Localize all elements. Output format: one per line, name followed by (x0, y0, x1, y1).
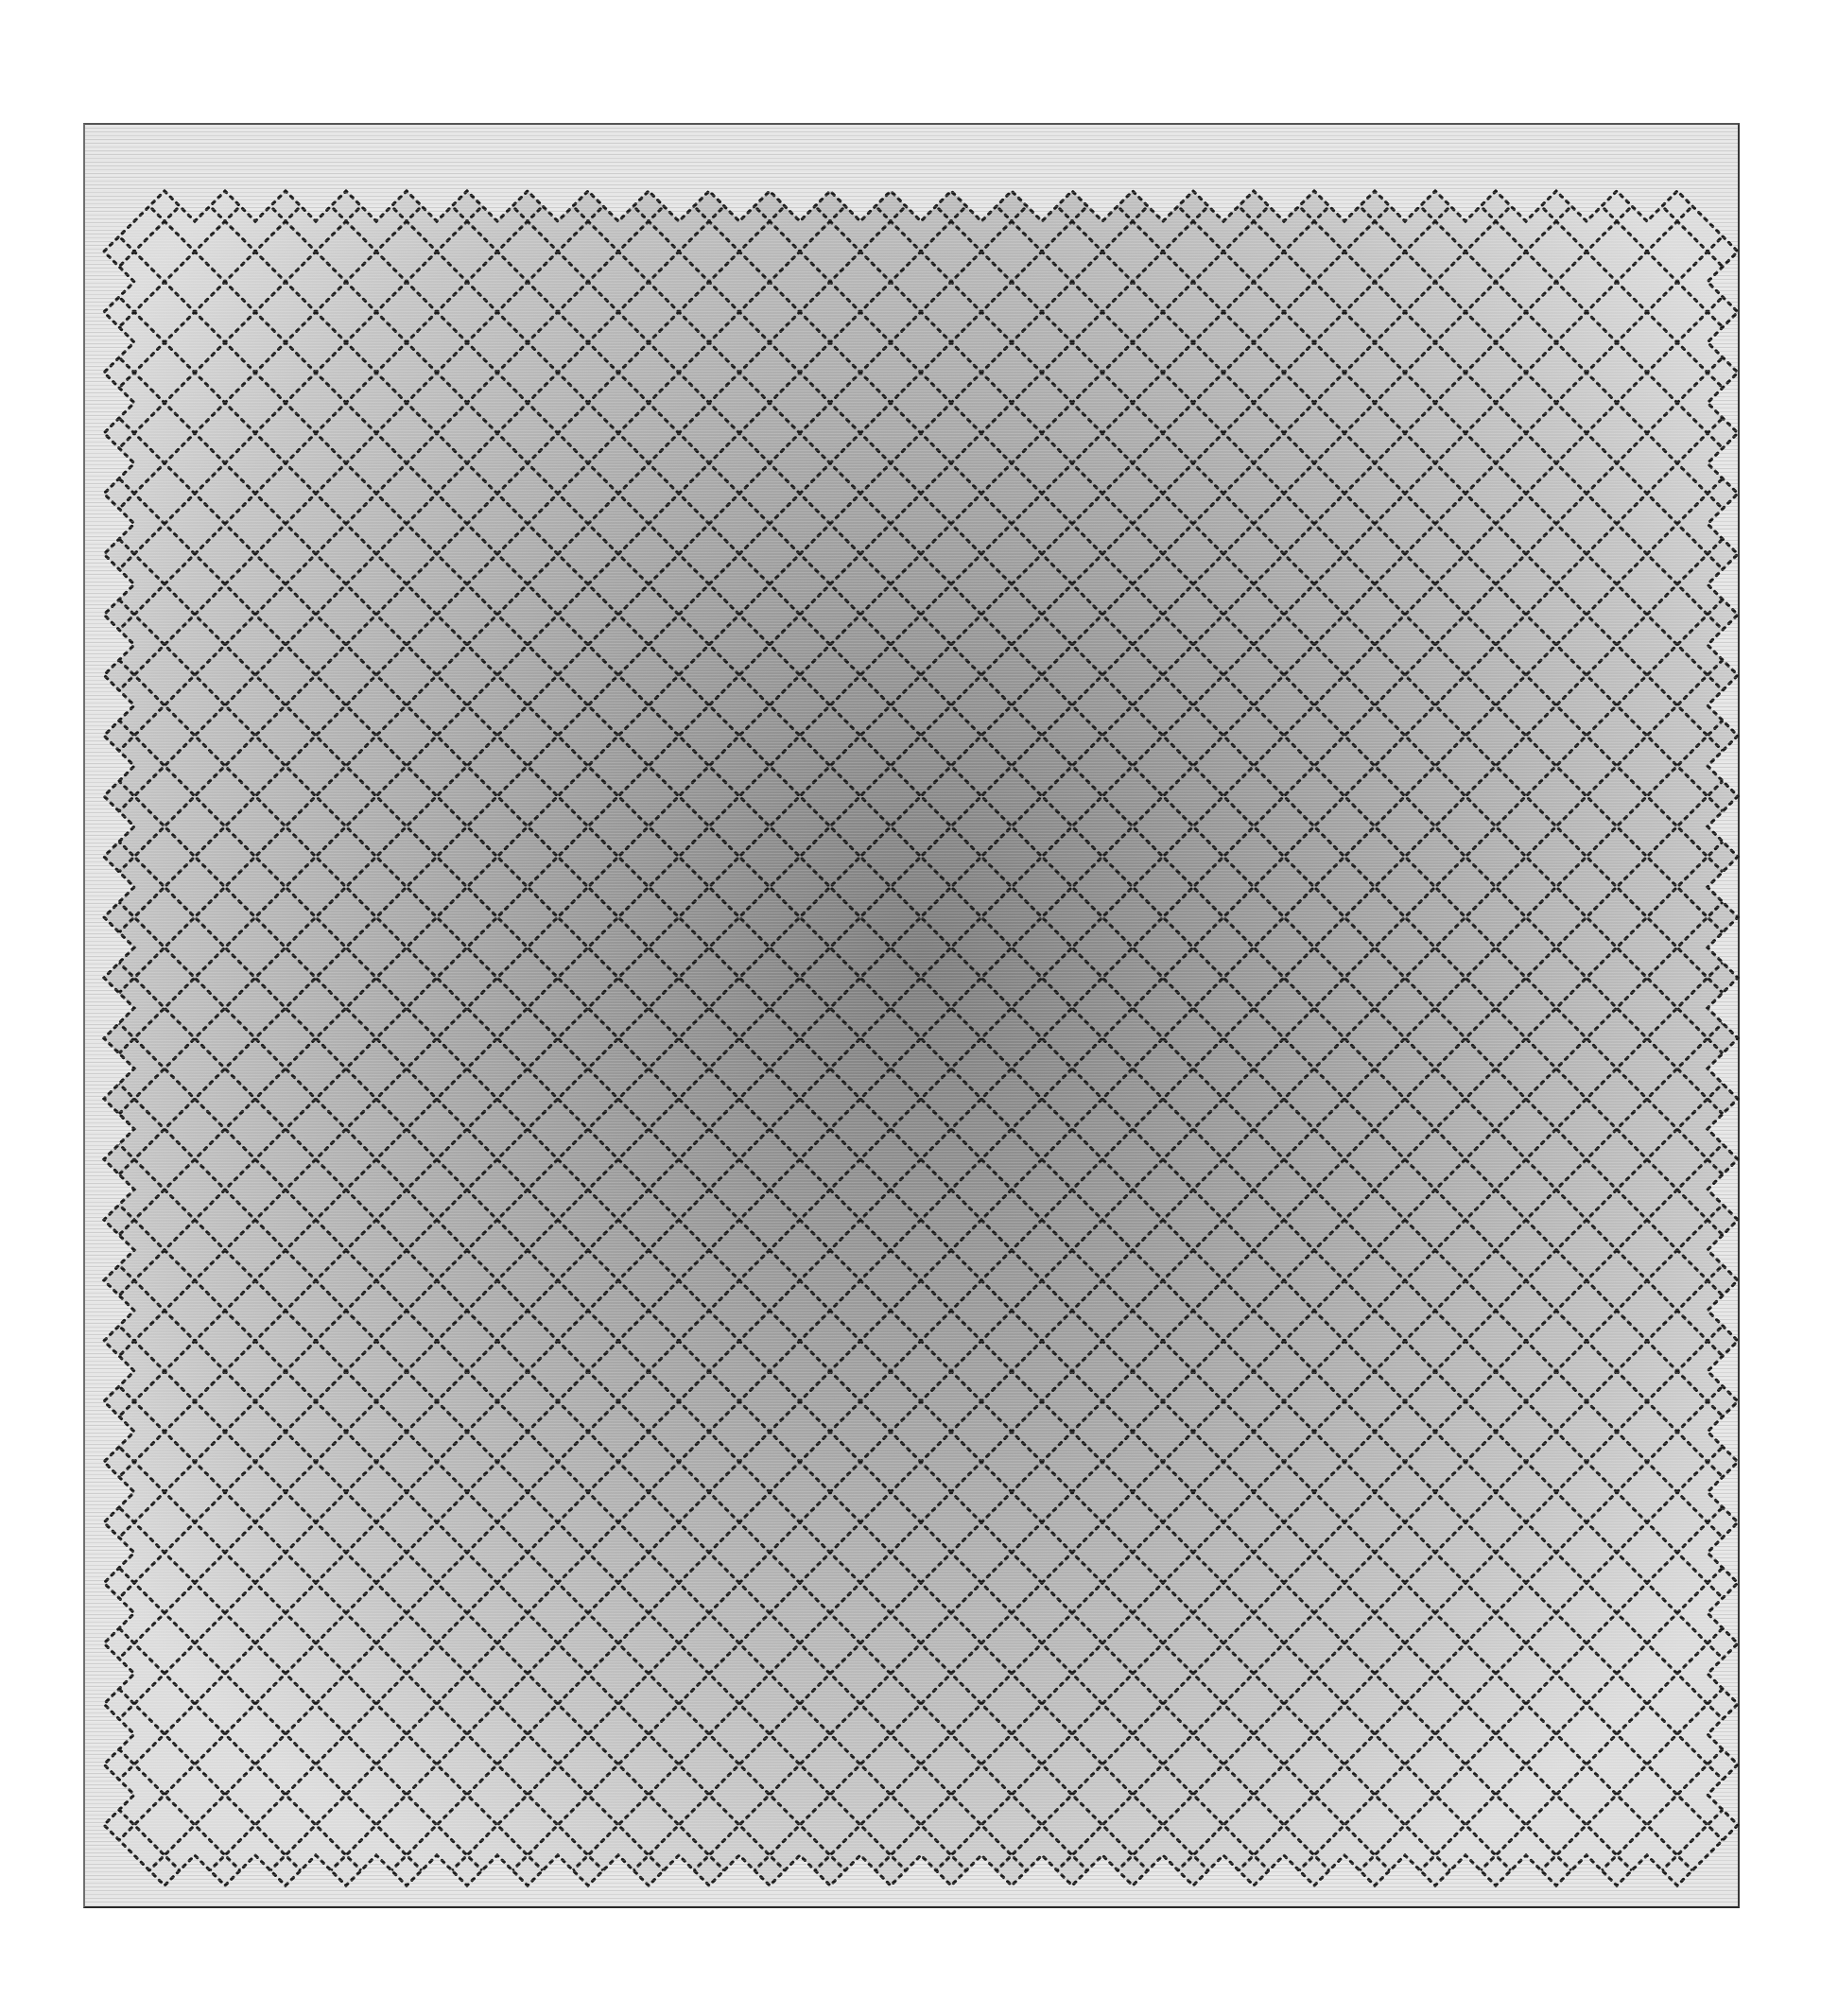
shaded-field (104, 191, 1738, 1886)
image-canvas (0, 0, 1838, 2016)
diamond-lattice-field (85, 125, 1742, 1910)
rug (83, 123, 1740, 1908)
